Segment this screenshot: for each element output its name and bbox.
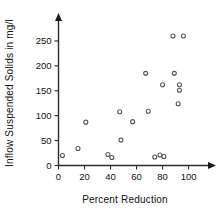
scatter-chart-figure: 050100150200250 020406080100 Percent Red… (0, 0, 224, 217)
data-point (110, 156, 114, 160)
data-point (60, 154, 64, 158)
x-tick-label: 0 (56, 171, 61, 182)
data-point (177, 88, 181, 92)
y-tick-label: 250 (36, 35, 52, 46)
data-point (76, 147, 80, 151)
y-axis-title: Inflow Suspended Solids in mg/l (4, 19, 15, 167)
y-tick-label: 50 (41, 135, 52, 146)
data-point (131, 120, 135, 124)
data-point (146, 109, 150, 113)
data-point (118, 110, 122, 114)
data-point (176, 102, 180, 106)
y-axis-arrow-icon (55, 13, 62, 21)
x-tick-label: 20 (79, 171, 90, 182)
data-point (144, 71, 148, 75)
data-point (84, 120, 88, 124)
data-point (161, 83, 165, 87)
x-axis-arrow-icon (208, 162, 216, 169)
data-point (162, 155, 166, 159)
x-axis-title: Percent Reduction (82, 194, 168, 205)
data-point (181, 34, 185, 38)
data-point (172, 71, 176, 75)
x-tick-label: 60 (131, 171, 142, 182)
data-point (153, 155, 157, 159)
x-tick-label: 40 (105, 171, 116, 182)
axes-group (55, 13, 216, 169)
data-points-group (60, 34, 185, 160)
chart-canvas: 050100150200250 020406080100 Percent Red… (0, 0, 224, 217)
data-point (177, 83, 181, 87)
y-tick-label: 150 (36, 85, 52, 96)
data-point (106, 153, 110, 157)
y-tick-label: 0 (46, 160, 51, 171)
data-point (119, 138, 123, 142)
x-tick-label: 100 (181, 171, 197, 182)
y-ticks-group: 050100150200250 (36, 35, 59, 171)
y-tick-label: 100 (36, 110, 52, 121)
x-tick-label: 80 (157, 171, 168, 182)
x-ticks-group: 020406080100 (56, 166, 197, 182)
data-point (171, 34, 175, 38)
y-tick-label: 200 (36, 60, 52, 71)
